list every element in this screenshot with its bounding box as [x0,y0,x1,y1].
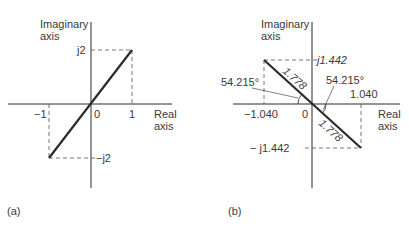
angle-arc-left [298,94,302,104]
x-axis-label: axis [154,120,174,132]
panel-caption: (a) [7,205,20,217]
origin-label: 0 [94,108,100,120]
panel-b: Imaginary axis j1.442 − j1.442 54.215° 5… [221,18,401,217]
y-tick-neg: −j2 [96,152,111,164]
x-tick-pos: 1.040 [350,88,378,100]
x-axis-label: Real [378,108,401,120]
panel-caption: (b) [228,205,241,217]
phasor-diagrams: Imaginary axis j2 −j2 −1 0 1 Real axis (… [0,0,409,228]
y-tick-pos: j1.442 [315,54,347,66]
angle-label-right: 54.215° [326,74,364,86]
x-tick-pos: 1 [129,108,135,120]
x-axis-label: axis [378,120,398,132]
y-axis-label: Imaginary [40,18,89,30]
x-tick-neg: −1 [34,108,47,120]
leader-line [323,86,334,110]
y-axis-label: axis [40,30,60,42]
origin-label: 0 [302,108,308,120]
y-tick-pos: j2 [76,44,86,56]
y-axis-label: Imaginary [261,18,310,30]
angle-label-left: 54.215° [221,76,259,88]
y-axis-label: axis [261,30,281,42]
x-tick-neg: −1.040 [244,108,278,120]
panel-a: Imaginary axis j2 −j2 −1 0 1 Real axis (… [7,18,177,217]
leader-line [252,88,298,98]
x-axis-label: Real [154,108,177,120]
y-tick-neg: − j1.442 [250,142,289,154]
